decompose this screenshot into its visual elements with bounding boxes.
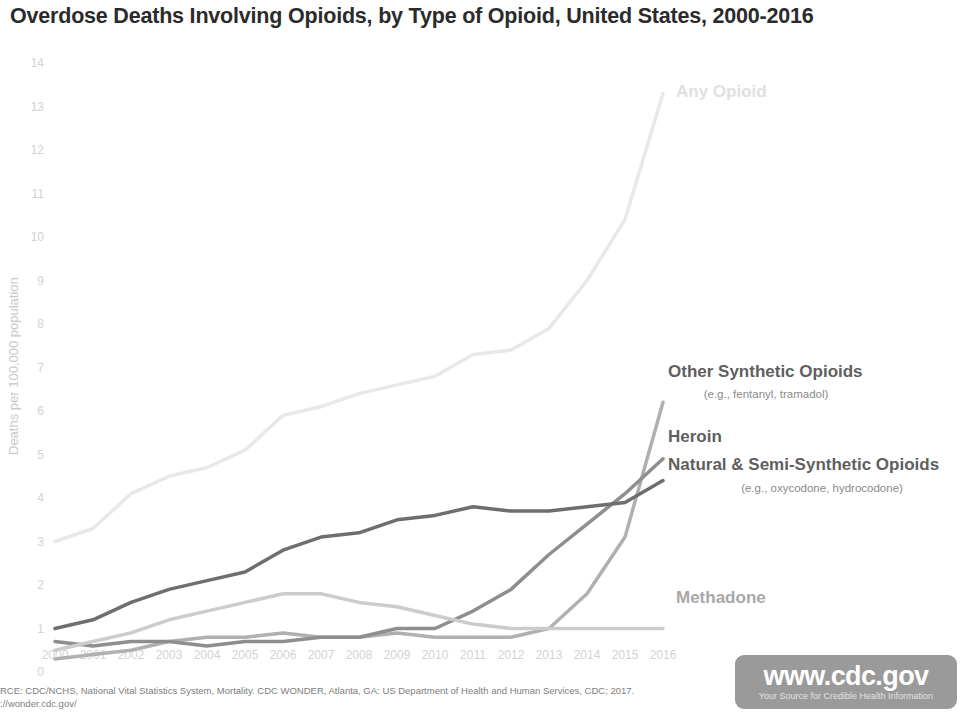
y-tick-label: 7 — [37, 361, 44, 375]
x-tick-label: 2012 — [498, 648, 525, 662]
source-line-2: ://wonder.cdc.gov/ — [0, 697, 720, 710]
y-tick-label: 5 — [37, 448, 44, 462]
x-tick-label: 2010 — [422, 648, 449, 662]
y-tick-label: 14 — [31, 56, 45, 70]
y-tick-label: 12 — [31, 143, 45, 157]
x-tick-label: 2004 — [194, 648, 221, 662]
source-note: RCE: CDC/NCHS, National Vital Statistics… — [0, 684, 720, 710]
x-tick-label: 2014 — [574, 648, 601, 662]
y-tick-label: 10 — [31, 230, 45, 244]
series-label: Heroin — [668, 427, 722, 446]
x-tick-label: 2003 — [156, 648, 183, 662]
y-tick-label: 1 — [37, 622, 44, 636]
x-tick-label: 2009 — [384, 648, 411, 662]
y-tick-label: 6 — [37, 404, 44, 418]
series-sublabel: (e.g., oxycodone, hydrocodone) — [741, 482, 903, 494]
x-tick-label: 2005 — [232, 648, 259, 662]
series-line — [55, 402, 663, 659]
x-tick-label: 2007 — [308, 648, 335, 662]
y-tick-label: 2 — [37, 578, 44, 592]
y-tick-label: 9 — [37, 274, 44, 288]
x-tick-label: 2011 — [460, 648, 486, 662]
y-tick-label: 11 — [32, 187, 45, 201]
x-tick-label: 2016 — [650, 648, 677, 662]
x-tick-label: 2015 — [612, 648, 639, 662]
series-sublabel: (e.g., fentanyl, tramadol) — [704, 388, 829, 400]
y-tick-label: 13 — [31, 100, 45, 114]
y-tick-label: 8 — [37, 317, 44, 331]
source-line-1: RCE: CDC/NCHS, National Vital Statistics… — [0, 684, 720, 697]
series-label: Natural & Semi-Synthetic Opioids — [668, 455, 939, 474]
y-tick-label: 3 — [37, 535, 44, 549]
series-label: Any Opioid — [676, 82, 767, 101]
y-axis-title: Deaths per 100,000 population — [6, 277, 21, 455]
series-label: Methadone — [676, 588, 766, 607]
x-tick-label: 2013 — [536, 648, 563, 662]
x-tick-label: 2008 — [346, 648, 373, 662]
x-tick-label: 2006 — [270, 648, 297, 662]
y-tick-label: 4 — [37, 491, 44, 505]
opioid-overdose-line-chart: 01234567891011121314Deaths per 100,000 p… — [0, 0, 965, 721]
y-tick-label: 0 — [37, 665, 44, 679]
cdc-badge-url: www.cdc.gov — [764, 662, 929, 690]
chart-svg: 01234567891011121314Deaths per 100,000 p… — [0, 0, 965, 721]
series-line — [55, 93, 663, 541]
series-label: Other Synthetic Opioids — [668, 362, 863, 381]
cdc-badge-tagline: Your Source for Credible Health Informat… — [759, 691, 933, 702]
cdc-gov-badge[interactable]: www.cdc.gov Your Source for Credible Hea… — [735, 655, 957, 709]
